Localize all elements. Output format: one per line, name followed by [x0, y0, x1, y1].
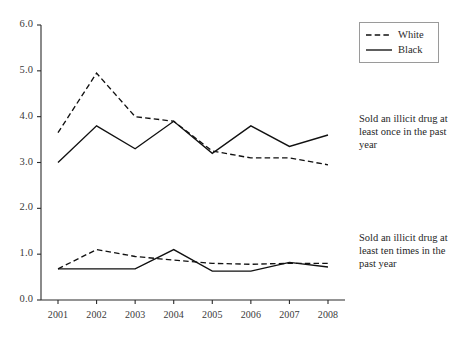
x-axis-tick-label: 2008	[306, 309, 350, 320]
x-axis-tick-label: 2005	[190, 309, 234, 320]
legend-label-white: White	[398, 29, 424, 41]
y-axis-tick-label: 6.0	[3, 18, 33, 29]
annotation-sold-once: Sold an illicit drug at least once in th…	[359, 112, 449, 152]
legend-item-black: Black	[365, 42, 433, 57]
x-axis-tick-label: 2003	[113, 309, 157, 320]
x-axis-tick-label: 2006	[229, 309, 273, 320]
y-axis-tick-label: 1.0	[3, 247, 33, 258]
y-axis-tick-label: 2.0	[3, 201, 33, 212]
chart-series-group	[58, 73, 328, 271]
chart-axes	[37, 25, 345, 304]
x-axis-ticks	[58, 300, 328, 304]
x-axis-tick-label: 2001	[36, 309, 80, 320]
y-axis-tick-label: 0.0	[3, 293, 33, 304]
x-axis-tick-label: 2002	[75, 309, 119, 320]
series-line-black	[58, 121, 328, 162]
y-axis-tick-label: 3.0	[3, 156, 33, 167]
legend-swatch-dashed-icon	[365, 30, 393, 40]
series-line-white	[58, 73, 328, 165]
series-line-black	[58, 250, 328, 272]
legend-item-white: White	[365, 27, 433, 42]
y-axis-tick-label: 5.0	[3, 64, 33, 75]
legend-label-black: Black	[398, 44, 423, 56]
annotation-sold-ten-times: Sold an illicit drug at least ten times …	[359, 231, 449, 271]
y-axis-tick-label: 4.0	[3, 110, 33, 121]
x-axis-tick-label: 2004	[152, 309, 196, 320]
legend-swatch-solid-icon	[365, 45, 393, 55]
x-axis-tick-label: 2007	[267, 309, 311, 320]
chart-legend: White Black	[359, 22, 439, 63]
series-line-white	[58, 250, 328, 269]
y-axis-ticks	[37, 25, 41, 300]
